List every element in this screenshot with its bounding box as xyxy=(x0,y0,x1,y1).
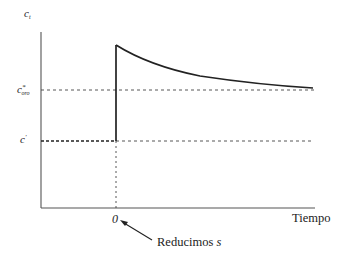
annotation-label: Reducimos s xyxy=(157,236,221,249)
consumption-diagram: ct c*oro c' 0 Tiempo Reducimos s xyxy=(0,0,350,258)
origin-tick-label: 0 xyxy=(112,213,118,225)
consumption-curve xyxy=(116,45,313,88)
annotation-arrow-shaft xyxy=(124,223,152,240)
x-axis-label: Tiempo xyxy=(292,212,330,225)
c-prime-label: c' xyxy=(20,134,26,145)
y-axis-label: ct xyxy=(24,8,31,20)
c-star-label: c*oro xyxy=(17,84,30,96)
